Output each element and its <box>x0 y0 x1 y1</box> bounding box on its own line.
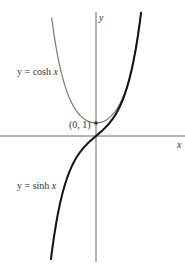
cosh-label-var: x <box>53 66 57 77</box>
sinh-label-text: y = sinh <box>17 180 52 191</box>
cosh-label: y = cosh x <box>17 67 58 77</box>
sinh-label: y = sinh x <box>17 181 56 191</box>
point-label: (0, 1) <box>69 120 91 130</box>
y-axis-label: y <box>99 13 103 23</box>
hyperbolic-plot <box>0 0 185 269</box>
cosh-label-text: y = cosh <box>17 66 53 77</box>
point-0-1 <box>94 121 98 125</box>
sinh-label-var: x <box>52 180 56 191</box>
x-axis-label: x <box>177 140 181 150</box>
